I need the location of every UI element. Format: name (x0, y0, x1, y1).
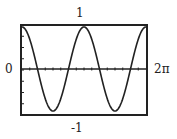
plot-area (0, 0, 177, 139)
axis-ticks (22, 36, 138, 104)
